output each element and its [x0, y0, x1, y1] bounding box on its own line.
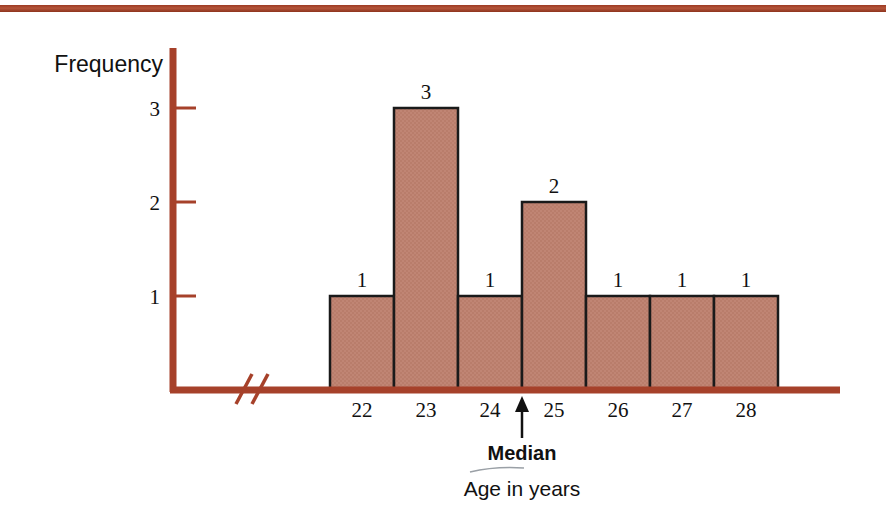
bar-26: [586, 296, 650, 390]
median-arrow-up-icon: [515, 396, 529, 438]
bar-24: [458, 296, 522, 390]
x-tick-label: 25: [544, 398, 565, 422]
y-tick-label-1: 1: [150, 285, 161, 309]
bar-27: [650, 296, 714, 390]
x-tick-label: 27: [672, 398, 693, 422]
x-tick-label: 23: [416, 398, 437, 422]
bar-value-label: 1: [485, 268, 496, 292]
bar-25: [522, 202, 586, 390]
histogram-plot: 1 3 1 2 1 1 1 3 2 1 Frequency 22 23 24 2…: [0, 0, 886, 531]
bar-23: [394, 108, 458, 390]
bar-value-label: 2: [549, 174, 560, 198]
bar-value-label: 1: [677, 268, 688, 292]
median-label: Median: [488, 442, 557, 464]
bars-group: [330, 108, 778, 390]
median-underline-mark: [470, 468, 524, 473]
bar-value-label: 1: [613, 268, 624, 292]
bar-22: [330, 296, 394, 390]
x-tick-label: 24: [480, 398, 502, 422]
x-axis-title: Age in years: [464, 477, 581, 500]
y-tick-label-3: 3: [150, 97, 161, 121]
histogram-figure: 1 3 1 2 1 1 1 3 2 1 Frequency 22 23 24 2…: [0, 0, 886, 531]
bar-28: [714, 296, 778, 390]
y-axis-title: Frequency: [54, 51, 163, 77]
bar-value-label: 1: [741, 268, 752, 292]
x-tick-label: 28: [736, 398, 757, 422]
x-tick-label: 26: [608, 398, 629, 422]
bar-value-label: 1: [357, 268, 368, 292]
x-tick-label: 22: [352, 398, 373, 422]
bar-value-label: 3: [421, 80, 432, 104]
y-tick-label-2: 2: [150, 191, 161, 215]
